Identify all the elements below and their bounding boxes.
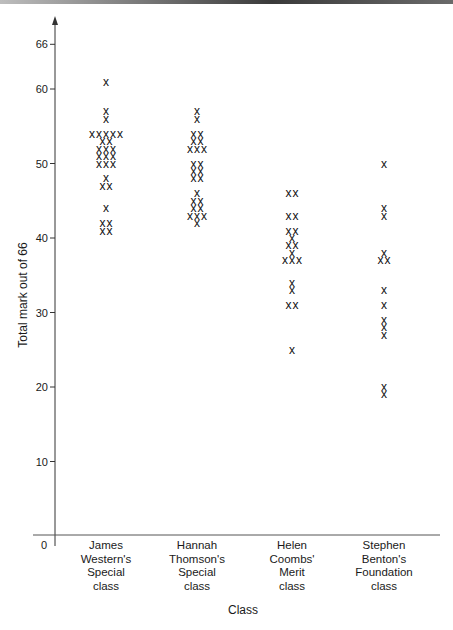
data-point-x-icon: x — [286, 298, 292, 312]
data-point-x-icon: x — [381, 246, 387, 260]
data-point-x-icon: x — [103, 201, 109, 215]
data-point-x-icon: x — [198, 127, 204, 141]
category-label-line: Thomson's — [169, 553, 225, 565]
x-axis-category-labels: JamesWestern'sSpecialclassHannahThomson'… — [81, 539, 413, 592]
y-tick-label: 10 — [36, 456, 48, 468]
data-point-x-icon: x — [107, 216, 113, 230]
data-point-x-icon: x — [381, 298, 387, 312]
data-point-x-icon: x — [100, 216, 106, 230]
data-point-x-icon: x — [194, 186, 200, 200]
data-point-x-icon: x — [293, 209, 299, 223]
category-label-line: Benton's — [362, 553, 407, 565]
category-label-line: Special — [178, 566, 216, 578]
category-label-line: Western's — [81, 553, 132, 565]
data-marks: xxxxxxxxxxxxxxxxxxxxxxxxxxxxxxxxxxxxxxxx… — [89, 75, 391, 402]
data-point-x-icon: x — [293, 186, 299, 200]
category-label-line: Coombs' — [269, 553, 314, 565]
data-point-x-icon: x — [381, 380, 387, 394]
y-axis-title: Total mark out of 66 — [16, 242, 30, 348]
y-tick-label: 40 — [36, 232, 48, 244]
y-tick-label: 60 — [36, 83, 48, 95]
data-point-x-icon: x — [282, 253, 288, 267]
category-label-line: Hannah — [177, 539, 217, 551]
data-point-x-icon: x — [286, 186, 292, 200]
data-point-x-icon: x — [191, 127, 197, 141]
dot-plot-chart: 010203040506066 Total mark out of 66 Jam… — [0, 0, 453, 630]
data-point-x-icon: x — [96, 127, 102, 141]
data-point-x-icon: x — [286, 209, 292, 223]
category-label-line: class — [184, 580, 210, 592]
y-axis-arrow-icon — [52, 16, 58, 25]
data-point-x-icon: x — [381, 283, 387, 297]
category-label-line: Foundation — [355, 566, 413, 578]
data-point-x-icon: x — [191, 157, 197, 171]
category-label-line: Merit — [279, 566, 305, 578]
category-label-line: James — [89, 539, 123, 551]
category-label-line: Helen — [277, 539, 307, 551]
data-point-x-icon: x — [89, 127, 95, 141]
data-point-x-icon: x — [293, 298, 299, 312]
category-label-line: Special — [87, 566, 125, 578]
data-point-x-icon: x — [289, 276, 295, 290]
data-point-x-icon: x — [103, 171, 109, 185]
data-point-x-icon: x — [296, 253, 302, 267]
data-point-x-icon: x — [289, 343, 295, 357]
category-label-line: class — [279, 580, 305, 592]
data-point-x-icon: x — [381, 201, 387, 215]
data-point-x-icon: x — [194, 104, 200, 118]
data-point-x-icon: x — [103, 127, 109, 141]
data-point-x-icon: x — [103, 75, 109, 89]
y-tick-label: 30 — [36, 307, 48, 319]
category-label-line: Stephen — [363, 539, 406, 551]
data-point-x-icon: x — [103, 104, 109, 118]
y-tick-label: 66 — [36, 38, 48, 50]
y-tick-label: 20 — [36, 381, 48, 393]
x-axis-title: Class — [228, 603, 258, 617]
data-point-x-icon: x — [381, 157, 387, 171]
category-label-line: class — [93, 580, 119, 592]
data-point-x-icon: x — [381, 313, 387, 327]
y-tick-label: 50 — [36, 158, 48, 170]
category-label-line: class — [371, 580, 397, 592]
data-point-x-icon: x — [117, 127, 123, 141]
data-point-x-icon: x — [286, 224, 292, 238]
y-tick-label: 0 — [41, 539, 47, 551]
data-point-x-icon: x — [198, 157, 204, 171]
y-axis-ticks: 010203040506066 — [36, 38, 55, 551]
data-point-x-icon: x — [110, 127, 116, 141]
data-point-x-icon: x — [293, 224, 299, 238]
